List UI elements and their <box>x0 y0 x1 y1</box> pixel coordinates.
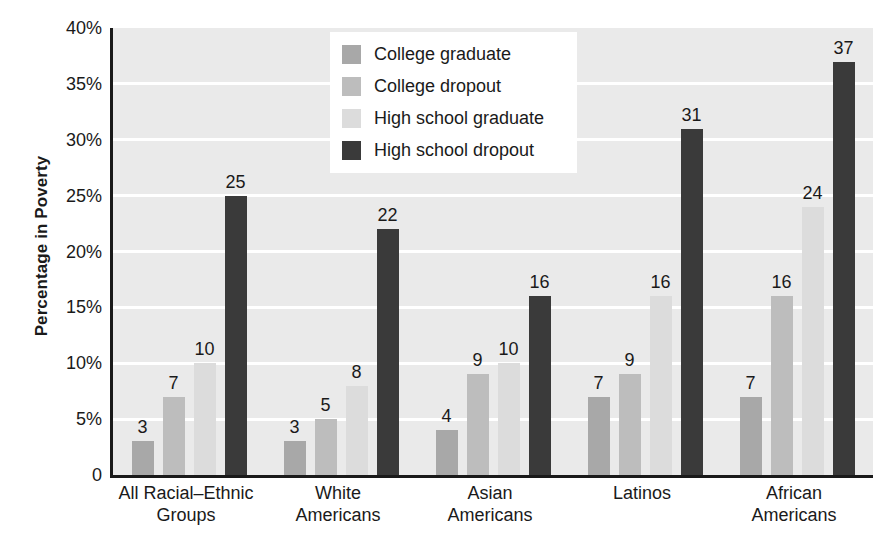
bar[interactable] <box>163 397 185 475</box>
bar-slot: 9 <box>619 28 641 475</box>
y-axis-tick-labels: 40%35%30%25%20%15%10%5%0 <box>44 0 102 551</box>
bar-slot: 25 <box>225 28 247 475</box>
bar[interactable] <box>771 296 793 475</box>
legend-item[interactable]: High school dropout <box>342 134 567 166</box>
bar-value-label: 25 <box>206 173 266 191</box>
chart-legend: College graduateCollege dropoutHigh scho… <box>330 32 577 173</box>
y-axis-tick-label: 25% <box>44 187 102 205</box>
bar-value-label: 37 <box>814 39 874 57</box>
bar-slot: 37 <box>833 28 855 475</box>
x-axis-tick-label-line: All Racial–Ethnic <box>110 482 262 504</box>
bar-slot: 7 <box>163 28 185 475</box>
x-axis-tick-label-line: Groups <box>110 504 262 526</box>
legend-item[interactable]: College dropout <box>342 70 567 102</box>
legend-swatch-icon <box>342 77 361 96</box>
bar[interactable] <box>346 386 368 475</box>
bar-slot: 10 <box>194 28 216 475</box>
x-axis-tick-label: WhiteAmericans <box>262 482 414 526</box>
y-axis-tick-label: 40% <box>44 19 102 37</box>
x-axis-tick-label-line: Americans <box>718 504 870 526</box>
bar[interactable] <box>650 296 672 475</box>
legend-item[interactable]: College graduate <box>342 38 567 70</box>
legend-swatch-icon <box>342 109 361 128</box>
bar-group: 791631 <box>588 28 703 475</box>
y-axis-tick-label: 35% <box>44 75 102 93</box>
bar[interactable] <box>377 229 399 475</box>
legend-item-label: College dropout <box>374 77 501 95</box>
bar-value-label: 16 <box>510 273 570 291</box>
bar[interactable] <box>467 374 489 475</box>
bar[interactable] <box>315 419 337 475</box>
x-axis-tick-label: Latinos <box>566 482 718 504</box>
bar[interactable] <box>194 363 216 475</box>
y-axis-tick-label: 30% <box>44 131 102 149</box>
bar-slot: 7 <box>740 28 762 475</box>
bar[interactable] <box>498 363 520 475</box>
bar[interactable] <box>529 296 551 475</box>
y-axis-tick-label: 10% <box>44 354 102 372</box>
bar[interactable] <box>740 397 762 475</box>
x-axis-tick-label-line: Americans <box>262 504 414 526</box>
x-axis-tick-label: All Racial–EthnicGroups <box>110 482 262 526</box>
x-axis-tick-label: AsianAmericans <box>414 482 566 526</box>
y-axis-tick-label: 15% <box>44 298 102 316</box>
bar-slot: 24 <box>802 28 824 475</box>
legend-item-label: College graduate <box>374 45 511 63</box>
x-axis-tick-label-line: Asian <box>414 482 566 504</box>
bar[interactable] <box>802 207 824 475</box>
bar-slot: 31 <box>681 28 703 475</box>
bar[interactable] <box>833 62 855 475</box>
bar[interactable] <box>436 430 458 475</box>
x-axis-tick-label: AfricanAmericans <box>718 482 870 526</box>
bar-value-label: 31 <box>662 106 722 124</box>
bar-group: 371025 <box>132 28 247 475</box>
bar[interactable] <box>132 441 154 475</box>
bar[interactable] <box>225 196 247 475</box>
legend-item-label: High school graduate <box>374 109 544 127</box>
bar[interactable] <box>681 129 703 475</box>
x-axis-tick-label-line: White <box>262 482 414 504</box>
x-axis-tick-label-line: Americans <box>414 504 566 526</box>
legend-item-label: High school dropout <box>374 141 534 159</box>
x-axis-tick-label-line: Latinos <box>566 482 718 504</box>
bar-group: 7162437 <box>740 28 855 475</box>
y-axis-tick-label: 5% <box>44 410 102 428</box>
legend-swatch-icon <box>342 141 361 160</box>
bar[interactable] <box>284 441 306 475</box>
x-axis-tick-label-line: African <box>718 482 870 504</box>
bar[interactable] <box>588 397 610 475</box>
legend-item[interactable]: High school graduate <box>342 102 567 134</box>
bar-slot: 3 <box>132 28 154 475</box>
y-axis-tick-label: 0 <box>44 466 102 484</box>
bar-value-label: 22 <box>358 206 418 224</box>
bar-slot: 7 <box>588 28 610 475</box>
poverty-by-education-bar-chart: Percentage in Poverty 40%35%30%25%20%15%… <box>0 0 881 551</box>
bar-slot: 16 <box>771 28 793 475</box>
bar-slot: 16 <box>650 28 672 475</box>
y-axis-tick-label: 20% <box>44 243 102 261</box>
legend-swatch-icon <box>342 45 361 64</box>
bar[interactable] <box>619 374 641 475</box>
